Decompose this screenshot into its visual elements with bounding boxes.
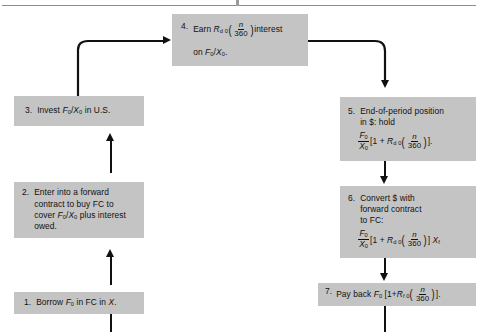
step-6-number: 6. xyxy=(348,193,355,226)
step-6-line-1: Convert $ with xyxy=(360,193,476,204)
step-4-earn-label: Earn xyxy=(193,24,211,34)
step-3-box[interactable]: 3. Invest F0/X0 in U.S. xyxy=(14,96,144,126)
fraction-denominator: 360 xyxy=(415,295,430,303)
paren-open-icon: ( xyxy=(402,138,405,146)
step-5-box[interactable]: 5. End-of-period position in $: hold 5. … xyxy=(340,97,476,161)
step-2-plus-interest-label: plus interest xyxy=(80,210,126,220)
symbol-sub-d0: d 0 xyxy=(393,140,401,146)
symbol-period: . xyxy=(225,47,227,57)
step-3-invest-label: Invest xyxy=(37,105,60,115)
step-4-on-label: on xyxy=(193,47,202,57)
step-2-cover-label: cover xyxy=(34,210,55,220)
symbol-period: . xyxy=(430,136,432,146)
step-2-line-2: contract to buy FC to xyxy=(34,199,144,210)
step-2-box[interactable]: 2. Enter into a forward contract to buy … xyxy=(14,182,144,238)
fraction-n-over-360: n360 xyxy=(407,231,422,248)
step-1-borrow-label: Borrow xyxy=(36,297,63,307)
step-2-line-3: cover F0/X0 plus interest xyxy=(34,210,144,222)
step-2-line-1: Enter into a forward xyxy=(34,187,144,198)
paren-open-icon: ( xyxy=(229,26,232,34)
step-6-line-2: forward contract xyxy=(360,204,476,215)
step-4-interest-label: interest xyxy=(254,24,282,34)
step-5-line-2: in $: hold xyxy=(360,117,476,128)
step-6-box[interactable]: 6. Convert $ with forward contract to FC… xyxy=(340,186,476,258)
paren-close-icon: ) xyxy=(432,290,435,298)
connector-1-2-stem xyxy=(110,256,112,285)
connector-7-out-stem xyxy=(384,306,386,332)
step-5-line-1: End-of-period position xyxy=(360,106,476,117)
paren-close-icon: ) xyxy=(250,26,253,34)
step-1-number: 1. xyxy=(24,297,31,309)
step-3-in-us-label: in U.S. xyxy=(85,105,111,115)
paren-open-icon: ( xyxy=(402,236,405,244)
step-2-line-4: owed. xyxy=(34,221,144,232)
fraction-n-over-360: n360 xyxy=(407,133,422,150)
fraction-denominator: 360 xyxy=(407,142,422,150)
step-1-in-fc-in-label: in FC in xyxy=(77,297,107,307)
fraction-n-over-360: n360 xyxy=(415,286,430,303)
step-2-number: 2. xyxy=(22,187,29,232)
step-7-payback-label: Pay back xyxy=(336,289,371,299)
step-3-number: 3. xyxy=(25,105,32,117)
step-7-box[interactable]: 7. Pay back F0 [1+Rf 0(n360)]. xyxy=(318,283,476,306)
symbol-period: . xyxy=(114,297,116,307)
connector-3-4-head xyxy=(163,36,171,44)
fraction-F0-over-X0: F0X0 xyxy=(358,229,369,250)
symbol-sub-f: f xyxy=(438,239,440,245)
fraction-F0-over-X0: F0X0 xyxy=(358,131,369,152)
symbol-sub-d0: d 0 xyxy=(393,239,401,245)
paren-close-icon: ) xyxy=(424,138,427,146)
connector-5-6-head xyxy=(380,176,388,184)
paren-close-icon: ) xyxy=(424,236,427,244)
step-6-line-3: to FC: xyxy=(360,215,476,226)
flowchart-canvas: 4. Earn Rd 0(n360)interest 4. on F0/X0. … xyxy=(0,0,478,332)
step-4-box[interactable]: 4. Earn Rd 0(n360)interest 4. on F0/X0. xyxy=(172,14,308,66)
step-7-number: 7. xyxy=(325,286,332,303)
paren-open-icon: ( xyxy=(410,290,413,298)
connector-in-1-stem xyxy=(110,313,112,332)
fraction-denominator: 360 xyxy=(407,240,422,248)
step-1-box[interactable]: 1. Borrow F0 in FC in X. xyxy=(14,292,144,314)
connector-2-3-stem xyxy=(110,140,112,173)
page-top-tick xyxy=(236,0,239,6)
connector-1-2-head xyxy=(106,249,114,257)
fraction-denominator: X0 xyxy=(358,142,369,152)
fraction-denominator: 360 xyxy=(233,30,248,38)
connector-2-3-head xyxy=(106,133,114,141)
fraction-n-over-360: n360 xyxy=(233,21,248,38)
symbol-sub-f0: f 0 xyxy=(403,293,410,299)
symbol-sub-d0: d 0 xyxy=(220,28,228,34)
connector-6-7-head xyxy=(380,273,388,281)
symbol-period: . xyxy=(438,289,440,299)
connector-4-5-head xyxy=(381,80,389,88)
step-4-number: 4. xyxy=(181,21,188,38)
fraction-denominator: X0 xyxy=(358,240,369,250)
step-5-number: 5. xyxy=(348,106,355,128)
